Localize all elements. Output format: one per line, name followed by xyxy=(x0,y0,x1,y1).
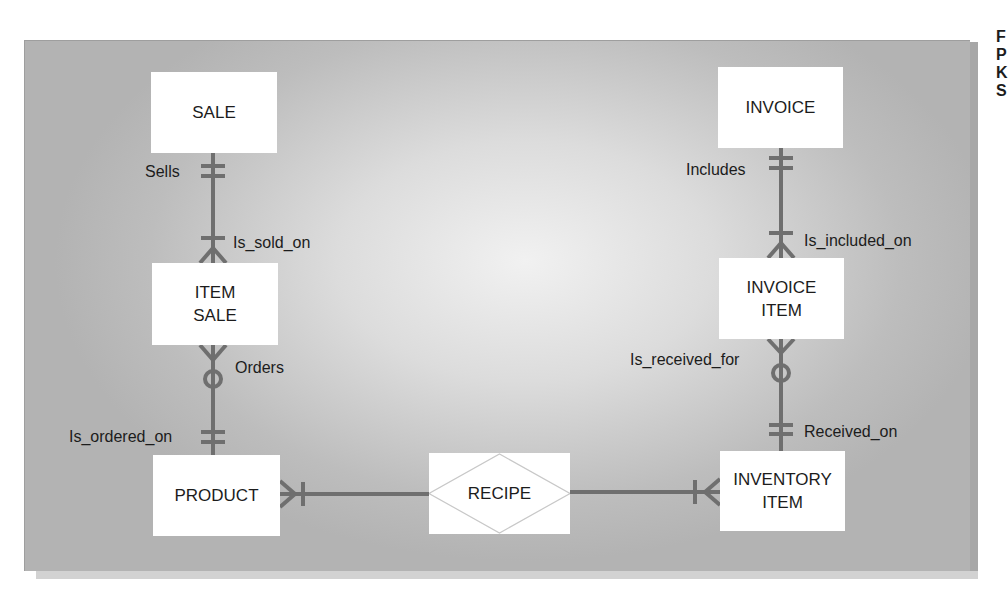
entity-recipe-label: RECIPE xyxy=(468,482,531,505)
connector-itemsale-product xyxy=(200,345,226,455)
cropped-side-text-line-4: S xyxy=(996,82,1007,100)
label-is-included-on: Is_included_on xyxy=(804,232,912,250)
entity-inventory-item-label: INVENTORY ITEM xyxy=(733,468,832,514)
entity-recipe: RECIPE xyxy=(429,453,570,534)
label-is-ordered-on: Is_ordered_on xyxy=(69,428,172,446)
cropped-side-text-line-3: K xyxy=(996,64,1008,82)
entity-invoice-item-label: INVOICE ITEM xyxy=(747,276,817,322)
label-includes: Includes xyxy=(686,161,746,179)
connector-invoiceitem-inventoryitem xyxy=(768,339,794,451)
label-sells: Sells xyxy=(145,163,180,181)
entity-product: PRODUCT xyxy=(153,455,280,536)
connector-sale-itemsale xyxy=(200,153,226,263)
connector-recipe-inventoryitem xyxy=(570,479,720,505)
label-received-on: Received_on xyxy=(804,423,897,441)
label-is-received-for: Is_received_for xyxy=(630,351,739,369)
entity-invoice-item: INVOICE ITEM xyxy=(719,258,844,339)
entity-sale-label: SALE xyxy=(192,101,235,124)
entity-product-label: PRODUCT xyxy=(174,484,258,507)
entity-item-sale-label: ITEM SALE xyxy=(193,281,236,327)
entity-inventory-item: INVENTORY ITEM xyxy=(720,451,845,531)
label-is-sold-on: Is_sold_on xyxy=(233,234,310,252)
entity-sale: SALE xyxy=(151,72,277,153)
cropped-side-text-line-1: F xyxy=(996,28,1006,46)
entity-invoice: INVOICE xyxy=(718,67,843,148)
cropped-side-text-line-2: P xyxy=(996,46,1007,64)
connector-invoice-invoiceitem xyxy=(768,148,794,258)
entity-item-sale: ITEM SALE xyxy=(152,263,278,345)
entity-invoice-label: INVOICE xyxy=(746,96,816,119)
connector-product-recipe xyxy=(280,481,429,507)
label-orders: Orders xyxy=(235,359,284,377)
